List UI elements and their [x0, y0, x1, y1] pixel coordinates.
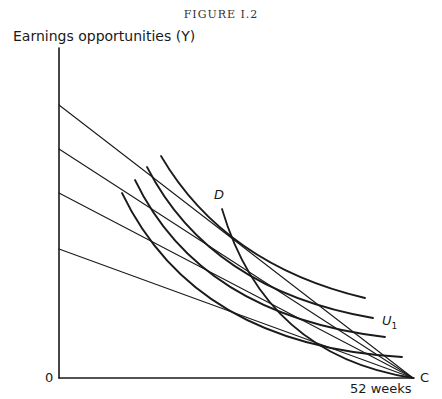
locus-d-label: D [214, 187, 224, 202]
budget-line-1 [59, 105, 413, 378]
utility-subscript: 1 [392, 321, 398, 331]
indifference-curve-u1 [147, 167, 373, 318]
indifference-curve-4 [122, 193, 402, 357]
point-c-label: C [420, 370, 429, 385]
utility-u1-label: U1 [382, 313, 397, 331]
x-axis-label: 52 weeks [350, 381, 412, 396]
origin-label: 0 [45, 370, 53, 385]
budget-line-3 [59, 193, 413, 378]
budget-line-2 [59, 149, 413, 378]
utility-letter: U [382, 313, 392, 328]
indifference-curve-1 [161, 156, 365, 298]
